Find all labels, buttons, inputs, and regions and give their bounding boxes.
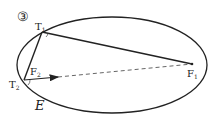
ellipse-diagram: ③ T1 F2 T2 F1 E xyxy=(0,0,215,117)
label-f1: F1 xyxy=(187,68,198,80)
panel-label: ③ xyxy=(17,9,29,24)
ray-arrow-t2 xyxy=(24,77,58,80)
label-t2: T2 xyxy=(9,79,20,91)
segment-t1-f1 xyxy=(42,32,192,64)
label-f2: F2 xyxy=(30,66,41,78)
focus-f1-dot xyxy=(191,63,194,66)
label-t1: T1 xyxy=(35,21,46,33)
dashed-line-to-f1 xyxy=(58,64,192,77)
label-ellipse-e: E xyxy=(34,98,45,113)
angle-arc-t2 xyxy=(28,80,30,85)
